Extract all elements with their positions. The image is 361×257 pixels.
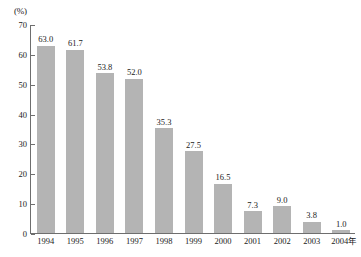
x-axis-label: 2001 xyxy=(240,236,266,246)
plot-area: 706050403020100 63.061.753.852.035.327.5… xyxy=(30,25,355,234)
y-axis-tick-label: 50 xyxy=(19,80,28,89)
bar xyxy=(96,73,114,233)
y-axis-tick-label: 0 xyxy=(23,230,27,239)
x-axis-label: 1994 xyxy=(33,236,59,246)
x-axis-label: 1995 xyxy=(62,236,88,246)
bar-value-label: 1.0 xyxy=(336,220,347,229)
bars-layer: 63.061.753.852.035.327.516.57.39.03.81.0 xyxy=(31,25,355,233)
y-axis-tick-label: 40 xyxy=(19,110,28,119)
y-axis-tick-label: 20 xyxy=(19,170,28,179)
bar-group: 3.8 xyxy=(303,25,321,233)
x-axis-label: 1997 xyxy=(121,236,147,246)
x-axis-line xyxy=(30,233,355,234)
bar xyxy=(66,50,84,233)
y-axis-tick-label: 70 xyxy=(19,21,28,30)
bar-group: 27.5 xyxy=(185,25,203,233)
bar-group: 35.3 xyxy=(155,25,173,233)
bar-value-label: 27.5 xyxy=(186,141,201,150)
bar-value-label: 7.3 xyxy=(247,201,258,210)
bar xyxy=(155,128,173,233)
bar xyxy=(125,79,143,234)
x-axis-label: 2002 xyxy=(269,236,295,246)
x-axis-label: 1999 xyxy=(181,236,207,246)
y-axis-tick-label: 30 xyxy=(19,140,28,149)
x-axis-label: 2000 xyxy=(210,236,236,246)
bar xyxy=(185,151,203,233)
bar-group: 7.3 xyxy=(244,25,262,233)
bar-chart: (%) 706050403020100 63.061.753.852.035.3… xyxy=(0,0,361,257)
y-axis-tick-label: 60 xyxy=(19,50,28,59)
bar-group: 1.0 xyxy=(332,25,350,233)
bar-value-label: 3.8 xyxy=(306,211,317,220)
y-axis-tick-mark xyxy=(31,234,35,235)
bar-value-label: 9.0 xyxy=(277,196,288,205)
bar-group: 63.0 xyxy=(37,25,55,233)
y-axis-tick-label: 10 xyxy=(19,200,28,209)
bar xyxy=(214,184,232,233)
bar xyxy=(37,46,55,233)
bar xyxy=(244,211,262,233)
bar-value-label: 35.3 xyxy=(157,118,172,127)
y-axis-unit-label: (%) xyxy=(14,6,27,16)
x-axis-labels: 1994199519961997199819992000200120022003… xyxy=(30,236,355,250)
bar-value-label: 53.8 xyxy=(97,63,112,72)
x-axis-label: 1998 xyxy=(151,236,177,246)
bar xyxy=(303,222,321,233)
bar-group: 52.0 xyxy=(125,25,143,233)
x-axis-label: 2004年 xyxy=(327,236,361,246)
bar-group: 61.7 xyxy=(66,25,84,233)
bar-value-label: 63.0 xyxy=(38,35,53,44)
bar-group: 9.0 xyxy=(273,25,291,233)
x-axis-label: 2003 xyxy=(299,236,325,246)
bar-value-label: 16.5 xyxy=(216,173,231,182)
bar xyxy=(332,230,350,233)
bar-value-label: 61.7 xyxy=(68,39,83,48)
bar-group: 53.8 xyxy=(96,25,114,233)
bar-value-label: 52.0 xyxy=(127,68,142,77)
bar-group: 16.5 xyxy=(214,25,232,233)
bar xyxy=(273,206,291,233)
x-axis-label: 1996 xyxy=(92,236,118,246)
